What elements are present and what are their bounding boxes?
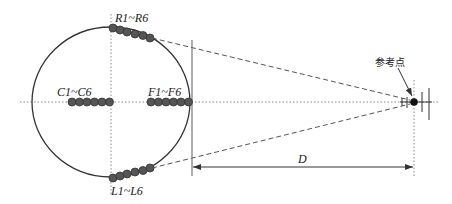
antenna-array-diagram: D R1~R6 L1~L6 C1~C6 F1~F6 (0, 0, 452, 204)
reference-point-marker (410, 98, 418, 106)
label-l: L1~L6 (110, 184, 143, 198)
reference-point-pointer (398, 68, 412, 96)
upper-sight-line (152, 38, 410, 100)
node-group-r (109, 24, 154, 42)
node-group-f (147, 98, 193, 106)
node-group-l (109, 164, 154, 182)
lower-sight-line (152, 104, 410, 168)
label-f: F1~F6 (147, 85, 181, 99)
node-group-c (68, 98, 114, 106)
reference-point-label: 参考点 (375, 56, 405, 68)
distance-label: D (297, 152, 307, 166)
label-c: C1~C6 (57, 85, 92, 99)
label-r: R1~R6 (114, 11, 148, 25)
